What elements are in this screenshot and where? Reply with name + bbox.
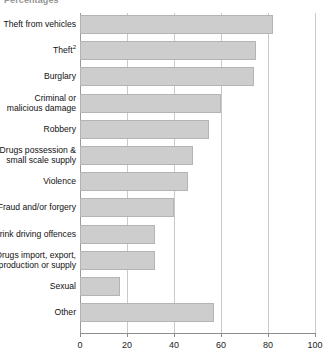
category-label: Drink driving offences [0,229,76,239]
x-tick-100 [315,333,316,337]
category-label: Violence [0,176,76,186]
bar-row [80,198,315,217]
bar-row [80,251,315,270]
category-label: Robbery [0,124,76,134]
x-tick-label-100: 100 [307,340,322,350]
bar-chart: Percentages 020406080100Theft from vehic… [0,0,326,356]
x-tick-label-60: 60 [216,340,226,350]
x-tick-label-80: 80 [263,340,273,350]
x-tick-80 [268,333,269,337]
x-tick-label-40: 40 [169,340,179,350]
chart-title: Percentages [4,0,59,5]
category-label: Other [0,307,76,317]
bar [80,41,256,60]
bar [80,15,273,34]
bar [80,251,155,270]
bar-row [80,67,315,86]
bar-row [80,15,315,34]
bar [80,198,174,217]
bar [80,94,221,113]
category-label: Theft2 [0,45,76,55]
bar-row [80,277,315,296]
bar [80,67,254,86]
bar-row [80,146,315,165]
x-tick-40 [174,333,175,337]
category-label: Drugs possession &small scale supply [0,145,76,165]
x-tick-20 [127,333,128,337]
bar [80,303,214,322]
category-label: Fraud and/or forgery [0,202,76,212]
category-label: Burglary [0,71,76,81]
x-tick-label-20: 20 [122,340,132,350]
category-label: Criminal ormalicious damage [0,93,76,113]
bar-row [80,303,315,322]
x-tick-0 [80,333,81,337]
category-label: Drugs import, export,production or suppl… [0,250,76,270]
bar [80,120,209,139]
x-tick-label-0: 0 [77,340,82,350]
bar [80,146,193,165]
bar-row [80,120,315,139]
bar-row [80,94,315,113]
category-label: Theft from vehicles [0,19,76,29]
bar-row [80,172,315,191]
bar-row [80,41,315,60]
x-tick-60 [221,333,222,337]
bar [80,225,155,244]
bar-row [80,225,315,244]
gridline-100 [315,13,316,333]
bar [80,277,120,296]
bar [80,172,188,191]
category-label: Sexual [0,281,76,291]
x-axis-line [80,333,316,334]
